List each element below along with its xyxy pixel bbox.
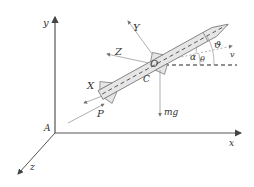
body-Y-label: Y [133,22,141,33]
thrust-P-label: P [96,108,104,119]
z-axis [18,133,55,174]
gravity-mg-label: mg [164,107,179,117]
body-frame [84,21,158,103]
body-Z-label: Z [114,46,123,57]
center-C-label: C [143,74,150,84]
velocity-v-label: v [230,50,235,59]
theta-label: θ [200,55,205,64]
y-axis-label: y [42,17,49,28]
pitch-label: ϑ [214,39,221,50]
alpha-label: α [190,52,196,62]
rocket-diagram: y x z A Y Z X O C P mg v α θ ϑ [0,0,254,187]
origin-A-label: A [43,123,51,133]
rocket [95,14,235,107]
origin-O-label: O [150,58,158,69]
x-axis-label: x [229,138,234,148]
body-X-label: X [86,80,95,91]
z-axis-label: z [29,162,35,172]
